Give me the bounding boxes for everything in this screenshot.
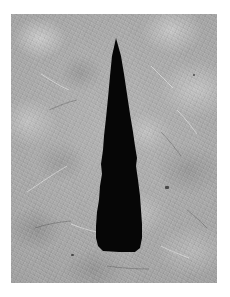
artifact-silhouette (11, 14, 217, 283)
page-root: Artifact silhouette photograph lanceolat… (0, 0, 230, 297)
blade-outline (96, 38, 142, 252)
photo-plate (11, 14, 217, 283)
